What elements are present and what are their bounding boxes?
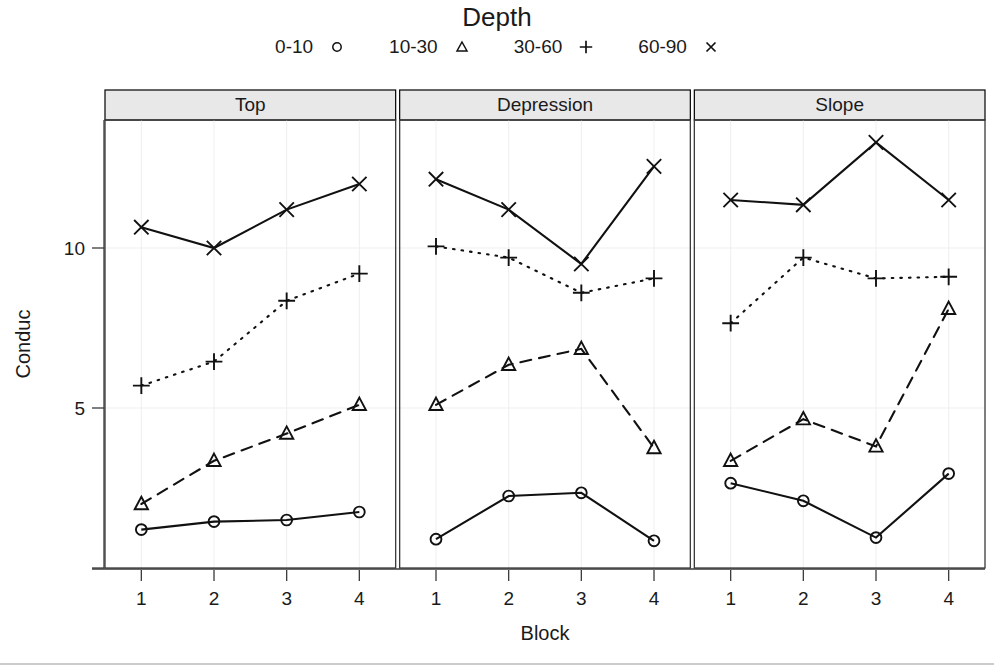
series-line	[436, 166, 654, 264]
panel-strip-label: Slope	[815, 94, 864, 115]
data-point-plus	[940, 268, 957, 285]
data-point-plus	[206, 353, 223, 370]
series-10-30	[135, 398, 366, 510]
series-0-10	[136, 507, 365, 535]
panel-top: Top1234	[105, 90, 396, 609]
x-tick-label: 2	[503, 588, 514, 609]
series-line	[436, 493, 654, 541]
x-tick-label: 1	[725, 588, 736, 609]
panel-border	[400, 120, 691, 568]
series-line	[141, 512, 359, 530]
data-point-plus	[646, 270, 663, 287]
x-axis-title: Block	[521, 622, 571, 644]
x-tick-label: 2	[209, 588, 220, 609]
data-point-plus	[133, 377, 150, 394]
y-axis-title: Conduc	[12, 310, 34, 379]
series-line	[436, 349, 654, 448]
series-0-10	[431, 487, 660, 546]
series-60-90	[134, 177, 366, 255]
series-line	[436, 246, 654, 292]
x-tick-label: 4	[354, 588, 365, 609]
x-tick-label: 2	[798, 588, 809, 609]
series-line	[141, 405, 359, 504]
data-point-plus	[428, 238, 445, 255]
x-tick-label: 1	[136, 588, 147, 609]
series-line	[731, 142, 949, 204]
data-point-plus	[351, 265, 368, 282]
series-line	[731, 258, 949, 324]
data-point-plus	[500, 249, 517, 266]
series-60-90	[723, 135, 955, 212]
data-point-plus	[573, 284, 590, 301]
series-line	[141, 274, 359, 386]
series-0-10	[725, 468, 954, 543]
series-30-60	[133, 265, 368, 394]
panel-depression: Depression1234	[400, 90, 691, 609]
plot-canvas: Top1234Depression1234Slope1234510BlockCo…	[0, 0, 994, 671]
series-line	[141, 184, 359, 248]
x-tick-label: 3	[871, 588, 882, 609]
x-tick-label: 4	[943, 588, 954, 609]
data-point-plus	[868, 270, 885, 287]
x-tick-label: 1	[431, 588, 442, 609]
x-tick-label: 3	[576, 588, 587, 609]
series-line	[731, 474, 949, 538]
x-tick-label: 3	[281, 588, 292, 609]
series-10-30	[724, 302, 955, 466]
data-point-plus	[795, 249, 812, 266]
panel-slope: Slope1234	[694, 90, 985, 609]
conductivity-trellis-figure: Depth 0-10 10-30 30-60	[0, 0, 994, 671]
series-60-90	[429, 159, 661, 271]
y-tick-label: 10	[64, 238, 85, 259]
series-30-60	[722, 249, 957, 331]
panel-strip-label: Depression	[497, 94, 593, 115]
series-10-30	[429, 342, 660, 454]
x-tick-label: 4	[649, 588, 660, 609]
series-line	[731, 309, 949, 461]
panel-border	[694, 120, 985, 568]
y-tick-label: 5	[74, 398, 85, 419]
panel-strip-label: Top	[235, 94, 266, 115]
